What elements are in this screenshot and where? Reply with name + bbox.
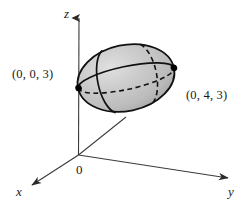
origin-label: 0 <box>76 162 83 177</box>
z-axis-label: z <box>63 6 69 21</box>
ellipsoid-group <box>68 35 184 121</box>
figure-canvas: z y x 0 (0, 0, 3) (0, 4, 3) <box>0 0 247 217</box>
right-vertex-label: (0, 4, 3) <box>186 88 227 102</box>
x-axis-rear-extension <box>79 117 127 155</box>
y-axis <box>79 155 229 178</box>
y-axis-label: y <box>226 184 234 199</box>
ellipsoid-coordinate-figure: z y x 0 (0, 0, 3) (0, 4, 3) <box>0 0 247 217</box>
left-vertex-label: (0, 0, 3) <box>12 67 53 81</box>
x-axis <box>32 155 79 185</box>
x-axis-label: x <box>15 184 22 199</box>
